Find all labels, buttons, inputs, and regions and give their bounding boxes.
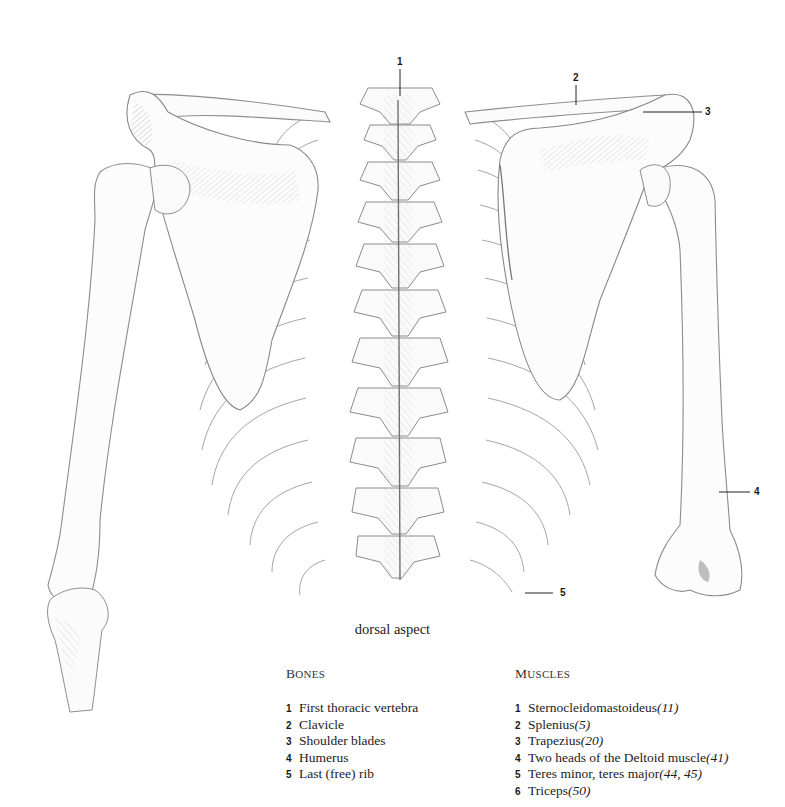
bones-title-rest: ONES [295, 668, 325, 680]
muscles-item-4: 4Two heads of the Deltoid muscle (41) [515, 750, 728, 767]
bones-item-3: 3Shoulder blades [286, 733, 418, 750]
bones-legend: BONES 1First thoracic vertebra 2Clavicle… [286, 666, 418, 783]
muscles-item-3: 3Trapezius (20) [515, 733, 728, 750]
bones-item-2: 2Clavicle [286, 717, 418, 734]
legend-label: Splenius [528, 717, 575, 733]
right-scapula [498, 94, 694, 400]
legend-label: Two heads of the Deltoid muscle [528, 750, 706, 766]
legend-number: 4 [515, 751, 528, 767]
legend-number: 2 [515, 718, 528, 734]
legend-label: Clavicle [299, 717, 344, 733]
page-reference: (50) [568, 783, 591, 799]
callout-label-3: 3 [705, 107, 711, 117]
legend-number: 5 [286, 767, 299, 783]
legend-label: Humerus [299, 750, 349, 766]
callout-label-1: 1 [397, 57, 403, 67]
bones-legend-title: BONES [286, 666, 418, 682]
legend-label: Sternocleidomastoideus [528, 700, 657, 716]
figure-caption: dorsal aspect [0, 621, 785, 638]
page-reference: (11) [657, 700, 679, 716]
callout-label-2: 2 [573, 73, 579, 83]
bones-item-1: 1First thoracic vertebra [286, 700, 418, 717]
page-reference: (41) [706, 750, 729, 766]
muscles-legend: MUSCLES 1Sternocleidomastoideus (11) 2Sp… [515, 666, 728, 800]
right-humerus [640, 165, 742, 596]
bones-item-4: 4Humerus [286, 750, 418, 767]
muscles-title-rest: USCLES [527, 668, 570, 680]
legend-label: Trapezius [528, 733, 581, 749]
legend-label: Last (free) rib [299, 766, 374, 782]
legend-label: Triceps [528, 783, 568, 799]
callout-label-4: 4 [754, 487, 760, 497]
legend-label: First thoracic vertebra [299, 700, 418, 716]
legend-number: 6 [515, 784, 528, 800]
legend-number: 3 [286, 734, 299, 750]
bones-item-5: 5Last (free) rib [286, 766, 418, 783]
muscles-title-initial: M [515, 666, 527, 681]
callout-label-5: 5 [560, 588, 566, 598]
legend-label: Shoulder blades [299, 733, 386, 749]
muscles-item-2: 2Splenius (5) [515, 717, 728, 734]
legend-label: Teres minor, teres major [528, 766, 659, 782]
spine-hatch [384, 95, 412, 575]
left-forearm [48, 588, 109, 712]
legend-number: 1 [515, 701, 528, 717]
legend-number: 2 [286, 718, 299, 734]
muscles-item-6: 6Triceps (50) [515, 783, 728, 800]
legend-number: 3 [515, 734, 528, 750]
page-reference: (20) [581, 733, 604, 749]
bones-title-initial: B [286, 666, 295, 681]
muscles-item-5: 5Teres minor, teres major (44, 45) [515, 766, 728, 783]
page-reference: (5) [575, 717, 591, 733]
legend-number: 4 [286, 751, 299, 767]
legend-number: 1 [286, 701, 299, 717]
muscles-legend-title: MUSCLES [515, 666, 728, 682]
muscles-item-1: 1Sternocleidomastoideus (11) [515, 700, 728, 717]
page-reference: (44, 45) [659, 766, 702, 782]
legend-number: 5 [515, 767, 528, 783]
